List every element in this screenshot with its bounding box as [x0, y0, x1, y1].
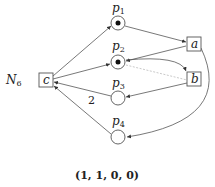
label-b: b	[191, 72, 199, 86]
label-p4: p4	[112, 114, 125, 129]
label-c: c	[43, 73, 50, 87]
arc-b-p3	[126, 83, 187, 97]
arc-p1-a	[125, 26, 186, 42]
net-name: N6	[5, 73, 22, 88]
arc-p2-b	[126, 59, 186, 71]
arc-p3-c	[54, 82, 111, 96]
petri-net-diagram: p1 p2 p3 p4 a b c N6 2 (1, 1, 0, 0)	[0, 0, 215, 187]
label-a: a	[191, 37, 198, 51]
token-p1	[116, 21, 121, 26]
label-p1: p1	[112, 1, 125, 16]
arc-c-p1	[53, 26, 111, 76]
label-p2: p2	[112, 39, 125, 54]
arc-p4-c	[54, 86, 111, 134]
place-p4	[111, 130, 125, 144]
arc-a-p4	[127, 48, 209, 137]
label-p3: p3	[112, 76, 125, 91]
place-p3	[111, 91, 125, 105]
marking-caption: (1, 1, 0, 0)	[75, 169, 139, 182]
token-p2	[116, 60, 121, 65]
arc-p2-b-inhibit	[126, 65, 187, 80]
arc-weight: 2	[88, 94, 95, 107]
arc-c-p2	[53, 64, 110, 79]
